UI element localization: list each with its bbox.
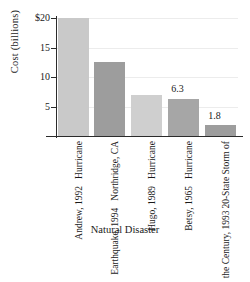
bar-northridge-1994	[94, 62, 125, 136]
x-axis-line	[46, 136, 243, 137]
y-tick-10	[51, 77, 57, 78]
category-label-hugo-1989: Hugo, 1989 Hurricane	[131, 141, 162, 229]
category-line: Northridge, CA	[110, 141, 121, 208]
category-line: 20-State Storm of	[221, 141, 232, 211]
bar-storm-1993	[205, 125, 236, 136]
y-tick-label-5: 5	[4, 102, 50, 112]
y-tick-5	[51, 107, 57, 108]
y-tick-15	[51, 48, 57, 49]
category-line: Hurricane	[184, 141, 195, 186]
category-label-northridge-1994: Earthquake, 1994 Northridge, CA	[94, 141, 125, 229]
value-label-betsy-1965: 6.3	[155, 84, 200, 94]
category-line: Hurricane	[74, 141, 85, 186]
category-label-andrew-1992: Andrew, 1992 Hurricane	[58, 141, 89, 229]
category-label-betsy-1965: Betsy, 1965 Hurricane	[168, 141, 199, 229]
y-tick-20	[51, 18, 57, 19]
bar-andrew-1992	[58, 18, 89, 136]
bar-hugo-1989	[131, 95, 162, 136]
x-axis-title: Natural Disaster	[0, 224, 250, 235]
y-tick-label-20: $20	[4, 13, 50, 23]
category-line: Earthquake, 1994	[110, 208, 121, 282]
category-line: Andrew, 1992	[74, 186, 85, 247]
category-line: the Century, 1993	[221, 211, 232, 281]
y-tick-labels: $20 15 10 5	[0, 0, 50, 240]
category-line: Hurricane	[147, 141, 158, 186]
value-label-storm-1993: 1.8	[192, 111, 237, 121]
category-label-storm-1993: the Century, 1993 20-State Storm of	[205, 141, 236, 229]
y-tick-label-10: 10	[4, 72, 50, 82]
y-tick-label-15: 15	[4, 43, 50, 53]
